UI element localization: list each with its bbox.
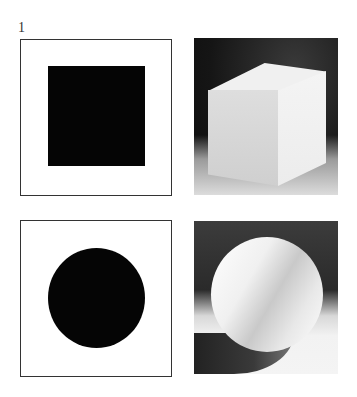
square-diagram-frame xyxy=(20,39,172,196)
sphere-photo xyxy=(194,221,338,374)
black-circle xyxy=(48,248,145,348)
black-square xyxy=(48,66,145,166)
circle-diagram-frame xyxy=(20,220,172,377)
cube-left-face xyxy=(208,90,278,186)
figure-number: 1 xyxy=(18,20,25,36)
cube-photo xyxy=(194,38,338,195)
sphere xyxy=(211,237,323,352)
